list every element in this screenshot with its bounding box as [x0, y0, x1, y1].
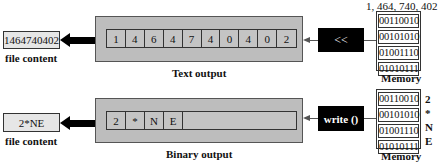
- memory-char: 2: [425, 92, 435, 106]
- buffer-empty-space: [183, 112, 296, 129]
- buffer-cell: 1: [107, 30, 126, 47]
- binary-write-arrow-icon: [60, 116, 96, 130]
- text-memory-label: Memory: [381, 72, 421, 84]
- text-output-buffer: 1 4 6 4 7 4 0 4 0 2: [106, 29, 297, 48]
- text-write-arrow-icon: [60, 33, 96, 47]
- memory-char: N: [425, 120, 435, 134]
- buffer-cell: 6: [145, 30, 164, 47]
- binary-file-content-box: 2*NE: [3, 113, 60, 132]
- binary-operator-arrow-icon: [303, 115, 319, 121]
- insertion-operator-box: <<: [318, 28, 364, 52]
- text-file-content: 1464740402: [4, 34, 59, 46]
- text-file-content-box: 1464740402: [3, 31, 60, 49]
- text-output-label: Text output: [172, 67, 226, 79]
- buffer-cell: 2: [277, 30, 296, 47]
- text-file-content-label: file content: [5, 52, 57, 64]
- buffer-cell: 2: [107, 112, 126, 129]
- buffer-cell: 0: [220, 30, 239, 47]
- buffer-cell: 4: [202, 30, 221, 47]
- buffer-cell: 4: [126, 30, 145, 47]
- memory-byte: 01001110: [378, 124, 419, 138]
- memory-byte: 00110010: [378, 14, 419, 28]
- text-memory-block: 00110010 00101010 01001110 01010111: [376, 11, 421, 71]
- memory-byte: 01001110: [378, 46, 419, 60]
- text-output-panel: 1 4 6 4 7 4 0 4 0 2: [95, 16, 303, 62]
- binary-output-label: Binary output: [166, 148, 232, 160]
- binary-output-panel: 2 * N E: [95, 98, 303, 143]
- binary-memory-label: Memory: [381, 150, 421, 162]
- memory-byte: 00110010: [378, 92, 419, 106]
- binary-file-content-label: file content: [5, 135, 57, 147]
- memory-byte: 00101010: [378, 30, 419, 44]
- memory-char-labels: 2 * N E: [425, 92, 435, 148]
- write-function-box: write (): [318, 106, 364, 131]
- buffer-cell: 0: [258, 30, 277, 47]
- memory-byte: 00101010: [378, 108, 419, 122]
- buffer-cell: 4: [164, 30, 183, 47]
- binary-output-buffer: 2 * N E: [106, 111, 297, 130]
- buffer-cell: 4: [239, 30, 258, 47]
- buffer-cell: 7: [183, 30, 202, 47]
- binary-memory-block: 00110010 00101010 01001110 01010111: [376, 89, 421, 149]
- buffer-cell: N: [145, 112, 164, 129]
- text-operator-arrow-icon: [303, 37, 319, 43]
- memory-char: *: [425, 106, 435, 120]
- memory-char: E: [425, 134, 435, 148]
- buffer-cell: *: [126, 112, 145, 129]
- buffer-cell: E: [164, 112, 183, 129]
- binary-file-content: 2*NE: [19, 117, 45, 129]
